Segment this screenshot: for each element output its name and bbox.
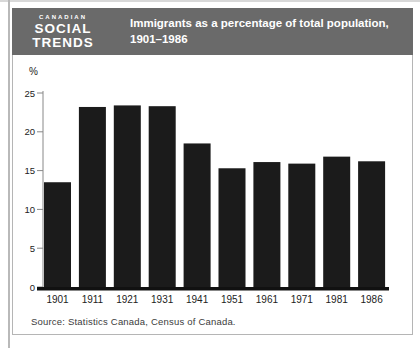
x-axis-label-1911: 1911	[82, 294, 104, 305]
brand-logo: CANADIAN SOCIAL TRENDS	[30, 14, 96, 49]
y-axis-tick-label: 15	[24, 165, 35, 176]
bar-1931	[149, 106, 176, 287]
figure-title: Immigrants as a percentage of total popu…	[130, 16, 389, 47]
x-axis-label-1901: 1901	[46, 294, 69, 305]
bar-1981	[323, 157, 350, 287]
figure-box: CANADIAN SOCIAL TRENDS Immigrants as a p…	[12, 8, 413, 335]
x-axis-label-1961: 1961	[256, 294, 279, 305]
x-axis-label-1971: 1971	[291, 294, 314, 305]
y-axis-unit-label: %	[29, 66, 38, 77]
x-axis-baseline	[37, 287, 389, 291]
x-axis-label-1941: 1941	[186, 294, 209, 305]
bar-1961	[253, 162, 280, 287]
bar-chart: %051015202519011911192119311941195119611…	[13, 55, 412, 313]
brand-trends: TRENDS	[30, 36, 96, 50]
y-axis-tick-label: 0	[30, 282, 35, 293]
x-axis-label-1931: 1931	[151, 294, 174, 305]
page-top-rule	[0, 0, 420, 2]
bar-1971	[288, 164, 315, 287]
source-note: Source: Statistics Canada, Census of Can…	[31, 316, 236, 327]
brand-canadian: CANADIAN	[30, 14, 96, 20]
bar-1941	[184, 143, 211, 287]
page-left-rule	[8, 0, 10, 348]
bar-1986	[358, 161, 385, 287]
figure-title-line1: Immigrants as a percentage of total popu…	[130, 17, 389, 29]
x-axis-label-1986: 1986	[360, 294, 383, 305]
x-axis-label-1981: 1981	[326, 294, 349, 305]
bar-1951	[219, 168, 246, 287]
figure-header-banner: CANADIAN SOCIAL TRENDS Immigrants as a p…	[12, 8, 413, 55]
y-axis-tick-label: 25	[24, 88, 35, 99]
bar-1901	[44, 182, 71, 287]
x-axis-label-1951: 1951	[221, 294, 244, 305]
x-axis-label-1921: 1921	[116, 294, 139, 305]
brand-social: SOCIAL	[30, 22, 96, 36]
y-axis-tick-label: 20	[24, 126, 35, 137]
y-axis-tick-label: 5	[30, 243, 35, 254]
bar-1921	[114, 105, 141, 287]
figure-title-line2: 1901–1986	[130, 33, 188, 45]
bar-1911	[79, 107, 106, 287]
y-axis-tick-label: 10	[24, 204, 35, 215]
